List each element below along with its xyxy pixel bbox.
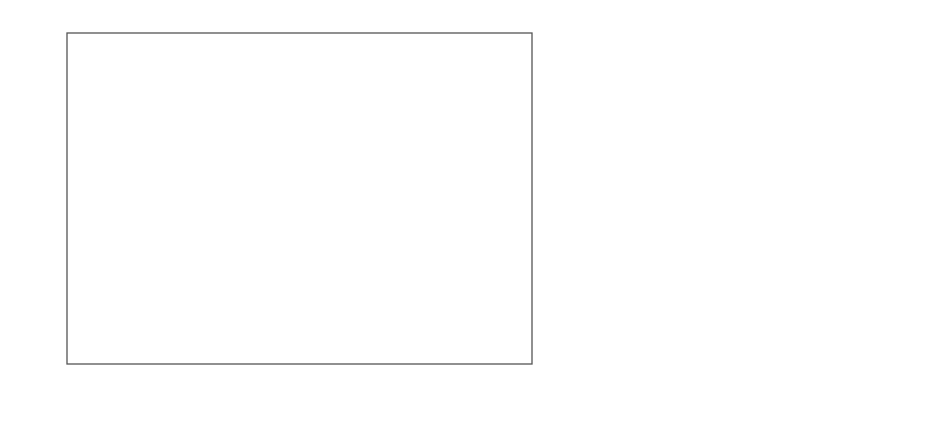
plot-area-frame (67, 33, 532, 364)
density-vs-cooling-rate-chart (0, 0, 560, 431)
